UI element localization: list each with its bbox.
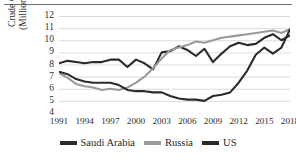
legend-color-swatch [144,141,161,144]
crude-oil-production-line-chart: Crude Oil Production (Million Barrels / … [0,0,296,165]
legend-entry[interactable]: Russia [144,137,193,149]
y-axis-title: Crude Oil Production (Million Barrels / … [0,0,36,48]
legend-entry[interactable]: Saudi Arabia [60,137,136,149]
y-axis-tick-label: 7 [49,72,54,82]
y-axis-tick-label: 10 [45,36,55,46]
x-axis-tick-label: 1997 [101,115,119,127]
y-axis-tick-labels: 121110987654 [38,16,54,113]
y-axis-tick-label: 12 [45,11,55,21]
series-line [59,34,290,69]
y-axis-tick-label: 9 [49,48,54,58]
x-axis-tick-label: 1994 [75,115,93,127]
legend-label: US [223,137,236,149]
legend-label: Russia [165,137,193,149]
x-axis-tick-label: 2006 [178,115,196,127]
legend-entry[interactable]: US [202,137,236,149]
x-axis-tick-label: 1991 [50,115,68,127]
x-axis-tick-label: 2015 [255,115,273,127]
y-axis-tick-label: 6 [49,84,54,94]
y-axis-tick-label: 8 [49,60,54,70]
legend-color-swatch [60,141,77,144]
top-divider-rule [4,4,292,5]
plot-wrapper: 121110987654 199119941997200020032006200… [38,16,292,128]
x-axis-tick-label: 2000 [127,115,145,127]
y-axis-tick-label: 5 [49,96,54,106]
chart-legend: Saudi ArabiaRussiaUS [0,133,296,153]
legend-label: Saudi Arabia [81,137,136,149]
x-axis-tick-labels: 1991199419972000200320062009201220152018 [59,115,290,128]
gridlines [59,17,290,114]
x-axis-tick-label: 2018 [281,115,296,127]
x-axis-tick-label: 2009 [204,115,222,127]
x-axis-tick-label: 2012 [229,115,247,127]
x-axis-tick-label: 2003 [152,115,170,127]
plot-svg [59,16,290,113]
legend-color-swatch [202,141,219,144]
y-axis-tick-label: 11 [45,23,54,33]
series-line [59,29,290,90]
plot-area [59,16,290,113]
